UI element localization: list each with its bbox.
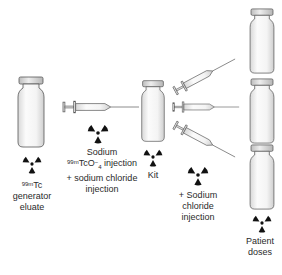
patient-doses-label: Patient doses xyxy=(240,236,280,258)
patient-dose-vial-icon-1 xyxy=(248,8,276,74)
generator-vial-icon xyxy=(16,72,46,152)
kit-vial-icon xyxy=(140,79,166,143)
radiation-icon xyxy=(142,146,164,168)
patient-dose-vial-icon-3 xyxy=(248,144,276,210)
radiation-icon xyxy=(186,163,210,187)
radiation-icon xyxy=(86,121,110,145)
generator-eluate-label: 99mTc generator eluate xyxy=(2,180,62,213)
radiation-icon xyxy=(21,153,43,175)
radiation-icon xyxy=(251,212,273,234)
patient-dose-vial-icon-2 xyxy=(248,78,276,144)
dispensing-syringe-icon-middle xyxy=(172,100,240,114)
dispensing-syringe-icon-bottom xyxy=(171,118,239,163)
transfer-syringe-icon xyxy=(62,99,140,115)
kit-label: Kit xyxy=(133,170,173,181)
sodium-chloride-label: + Sodium chloride injection xyxy=(176,190,220,223)
dispensing-syringe-icon-top xyxy=(171,52,239,97)
